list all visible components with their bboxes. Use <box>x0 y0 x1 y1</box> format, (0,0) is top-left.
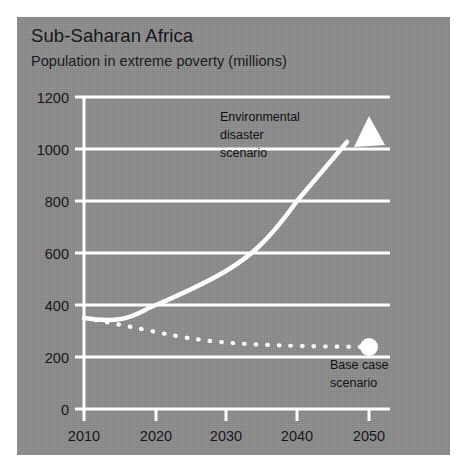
circle-marker <box>360 338 378 356</box>
annotation-disaster-line1: Environmental <box>220 110 300 124</box>
x-tick-marks <box>84 409 369 421</box>
annotation-base-line2: scenario <box>330 376 377 390</box>
chart-panel: Sub-Saharan Africa Population in extreme… <box>17 17 450 455</box>
y-tick-labels: 1200 1000 800 600 400 200 0 <box>37 90 69 418</box>
annotation-base-line1: Base case <box>330 358 388 372</box>
series-environmental-disaster-scenario <box>84 142 347 320</box>
x-tick-label-2040: 2040 <box>281 428 313 444</box>
x-tick-label-2050: 2050 <box>353 428 385 444</box>
chart-plot-area: 1200 1000 800 600 400 200 0 2010 2020 20… <box>17 17 450 455</box>
x-tick-label-2030: 2030 <box>210 428 242 444</box>
annotation-environmental-disaster: Environmental disaster scenario <box>220 110 300 160</box>
annotation-base-case: Base case scenario <box>330 358 388 390</box>
annotation-disaster-line2: disaster <box>220 128 264 142</box>
y-tick-label-600: 600 <box>45 246 69 262</box>
y-tick-label-400: 400 <box>45 298 69 314</box>
y-tick-label-1200: 1200 <box>37 90 69 106</box>
y-tick-label-800: 800 <box>45 194 69 210</box>
x-tick-label-2010: 2010 <box>68 428 100 444</box>
x-tick-label-2020: 2020 <box>140 428 172 444</box>
triangle-arrow-marker <box>354 116 385 147</box>
series-base-case-scenario <box>84 318 369 347</box>
x-tick-labels: 2010 2020 2030 2040 2050 <box>68 428 385 444</box>
y-tick-label-0: 0 <box>61 402 69 418</box>
annotation-disaster-line3: scenario <box>220 146 267 160</box>
y-tick-label-1000: 1000 <box>37 142 69 158</box>
y-tick-label-200: 200 <box>45 350 69 366</box>
